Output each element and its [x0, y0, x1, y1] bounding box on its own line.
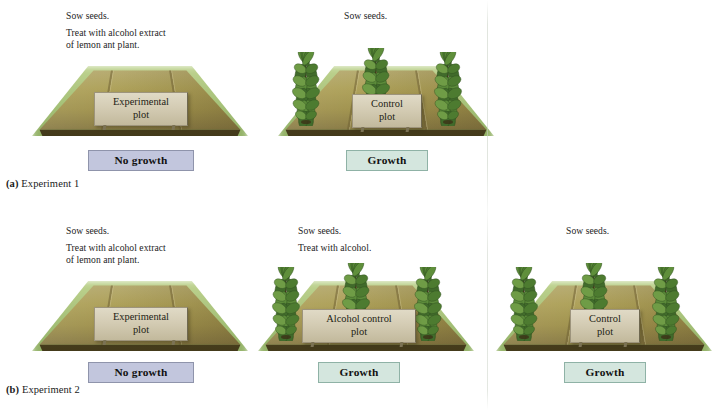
sign-line-1: Control	[577, 313, 633, 326]
instructions-experimental-1: Sow seeds. Treat with alcohol extract of…	[66, 10, 166, 52]
caption-experiment-1: (a) Experiment 1	[6, 178, 79, 189]
instruction-line: Sow seeds.	[298, 225, 371, 238]
result-badge-control-1: Growth	[346, 150, 428, 171]
instruction-line: Sow seeds.	[66, 10, 166, 23]
result-badge-control-2: Growth	[564, 362, 646, 383]
result-badge-experimental-2: No growth	[88, 362, 194, 383]
plot-sign-experimental-1: Experimental plot	[94, 92, 188, 126]
plot-sign-experimental-2: Experimental plot	[94, 307, 188, 341]
instructions-control-2: Sow seeds.	[566, 225, 609, 238]
instruction-line: Treat with alcohol extract	[66, 242, 166, 255]
sign-line-2: plot	[101, 324, 181, 337]
sign-line-2: plot	[101, 109, 181, 122]
experiment-2-panel: Sow seeds. Treat with alcohol extract of…	[0, 205, 723, 410]
instruction-line: of lemon ant plant.	[66, 39, 166, 52]
plot-sign-alcohol-control-2: Alcohol control plot	[302, 309, 416, 343]
caption-text: Experiment 1	[21, 178, 79, 189]
sign-line-1: Alcohol control	[309, 313, 409, 326]
sign-line-1: Experimental	[101, 311, 181, 324]
sign-line-1: Experimental	[101, 96, 181, 109]
result-badge-alcohol-control-2: Growth	[318, 362, 400, 383]
instructions-control-1: Sow seeds.	[344, 10, 387, 23]
instructions-alcohol-control-2: Sow seeds. Treat with alcohol.	[298, 225, 371, 254]
sign-line-2: plot	[577, 326, 633, 339]
instruction-line: of lemon ant plant.	[66, 254, 166, 267]
caption-text: Experiment 2	[22, 384, 80, 395]
caption-marker: (a)	[6, 178, 19, 189]
instructions-experimental-2: Sow seeds. Treat with alcohol extract of…	[66, 225, 166, 267]
instruction-line: Sow seeds.	[66, 225, 166, 238]
instruction-line: Treat with alcohol.	[298, 242, 371, 255]
caption-marker: (b)	[6, 384, 19, 395]
scan-artifact-line	[487, 0, 488, 410]
plant	[426, 52, 470, 126]
instruction-line: Sow seeds.	[344, 10, 387, 23]
plot-sign-control-2: Control plot	[570, 309, 640, 343]
caption-experiment-2: (b) Experiment 2	[6, 384, 80, 395]
sign-line-1: Control	[359, 98, 415, 111]
experiment-1-panel: Sow seeds. Treat with alcohol extract of…	[0, 0, 723, 205]
sign-line-2: plot	[309, 326, 409, 339]
result-badge-experimental-1: No growth	[88, 150, 194, 171]
plant	[644, 267, 688, 341]
plot-sign-control-1: Control plot	[352, 94, 422, 128]
sign-line-2: plot	[359, 111, 415, 124]
plant	[284, 52, 328, 126]
plant	[502, 267, 546, 341]
instruction-line: Treat with alcohol extract	[66, 27, 166, 40]
instruction-line: Sow seeds.	[566, 225, 609, 238]
